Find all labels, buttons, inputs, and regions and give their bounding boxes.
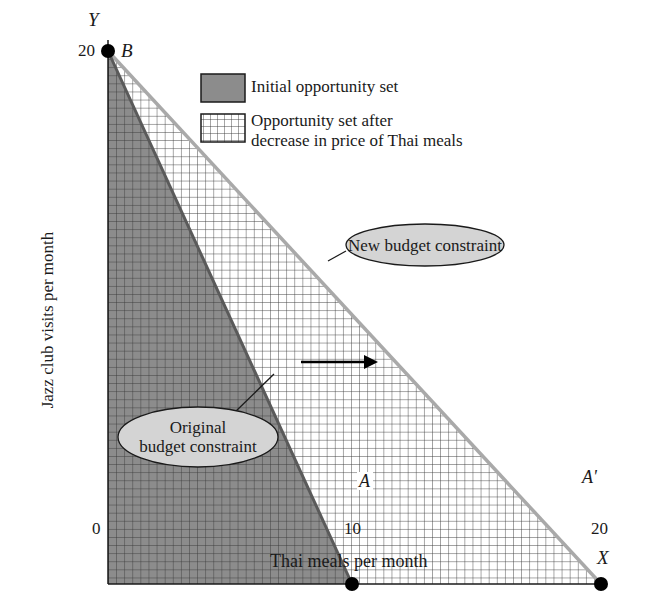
point-b-marker: [101, 44, 115, 58]
x-tick-10: 10: [344, 520, 361, 537]
y-tick-20: 20: [78, 42, 95, 59]
y-axis-letter: Y: [88, 10, 99, 29]
legend-label-initial: Initial opportunity set: [251, 78, 398, 95]
point-a-marker: [345, 577, 359, 591]
x-axis-title: Thai meals per month: [270, 552, 427, 570]
point-a-label: A: [359, 472, 370, 490]
new-budget-constraint-label: New budget constraint: [346, 236, 504, 255]
legend-swatch-initial: [201, 74, 245, 102]
point-a-prime-label: A': [582, 468, 597, 486]
legend-label-after-line2: decrease in price of Thai meals: [251, 132, 463, 149]
x-tick-20: 20: [591, 520, 608, 537]
point-b-label: B: [121, 41, 133, 60]
x-axis-letter: X: [597, 548, 609, 567]
legend-label-after-line1: Opportunity set after: [251, 112, 393, 129]
original-callout-line2: budget constraint: [118, 437, 278, 456]
original-budget-constraint-label: Original budget constraint: [118, 418, 278, 456]
x-tick-0: 0: [92, 520, 101, 537]
original-callout-line1: Original: [118, 418, 278, 437]
y-axis-title: Jazz club visits per month: [38, 232, 58, 409]
new-callout-leader: [328, 251, 346, 261]
point-a-prime-marker: [594, 577, 608, 591]
